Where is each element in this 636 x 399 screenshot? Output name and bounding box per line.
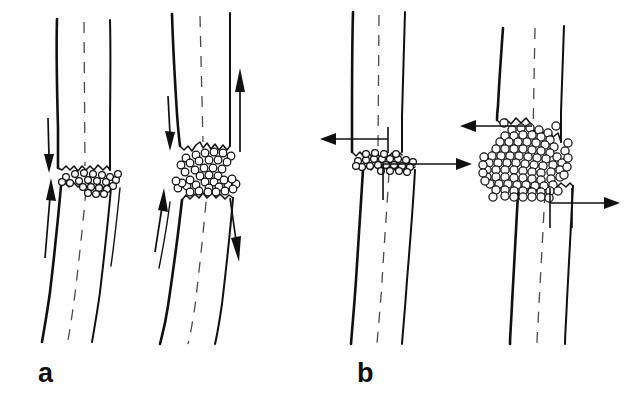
a2-lower-left-cortex <box>160 200 182 344</box>
b2-lower-centerline <box>537 192 545 344</box>
a2-axial-load-up-arrow <box>155 188 168 252</box>
a2-upper-left-cortex <box>172 14 180 146</box>
a1-callus-cells <box>59 170 122 198</box>
a1-axial-load-down-arrow <box>44 118 54 173</box>
b2-callus-cells <box>479 119 572 202</box>
b2-upper-centerline <box>533 28 535 136</box>
b2-lower-left-cortex <box>510 193 518 344</box>
panel-b: b <box>320 12 620 388</box>
panel-a-label: a <box>38 358 54 388</box>
panel-b-label: b <box>357 358 374 388</box>
b2-upper-right-cortex <box>561 26 564 142</box>
b1-upper-right-cortex <box>402 12 405 152</box>
b1-shear-load-right-arrow <box>383 158 472 200</box>
a1-upper-fragment <box>57 19 111 171</box>
b1-upper-fragment <box>352 12 405 157</box>
a2-callus-cells <box>172 148 240 196</box>
a1-upper-left-cortex <box>57 19 58 168</box>
a2-axial-load-down-arrow <box>165 96 175 151</box>
a1-lower-periosteal-line <box>111 188 120 266</box>
fracture-healing-diagram: a <box>0 0 636 399</box>
a1-lower-left-cortex <box>42 186 61 342</box>
a2-lower-centerline <box>188 202 206 344</box>
a2-upper-centerline <box>200 16 203 142</box>
a2-lower-right-cortex <box>215 198 233 344</box>
figure-root: a <box>0 0 636 399</box>
b1-lower-right-cortex <box>402 170 415 344</box>
b2-upper-left-cortex <box>497 28 503 120</box>
a2-upper-fragment <box>172 13 230 151</box>
a1-lower-right-cortex <box>92 188 111 342</box>
a1-lower-fragment <box>42 182 120 342</box>
b1-upper-left-cortex <box>352 12 353 152</box>
b1-upper-centerline <box>378 15 379 150</box>
a1-upper-centerline <box>84 22 85 166</box>
figure-b2-large-callus-shear <box>460 26 620 344</box>
a2-far-cortex-up-arrow <box>235 68 245 152</box>
b2-lower-fragment <box>510 183 573 344</box>
figure-a1-small-callus-axial <box>42 19 121 342</box>
figure-a2-large-callus-axial <box>155 13 245 344</box>
figure-b1-small-callus-shear <box>320 12 472 344</box>
panel-a: a <box>38 13 245 388</box>
a2-far-cortex-down-arrow <box>230 198 241 262</box>
b1-lower-left-cortex <box>351 170 363 344</box>
a2-lower-fragment <box>159 193 233 344</box>
a1-lower-centerline <box>68 190 86 340</box>
